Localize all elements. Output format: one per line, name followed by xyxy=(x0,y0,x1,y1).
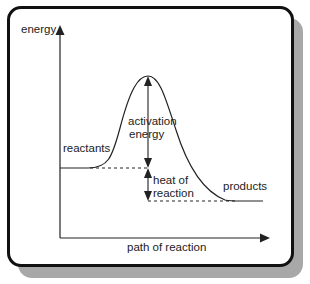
heat-of-reaction-label-line2: reaction xyxy=(153,187,194,199)
activation-energy-label-line1: activation xyxy=(128,115,177,127)
y-axis xyxy=(56,25,65,238)
x-axis-label: path of reaction xyxy=(127,241,206,253)
heat-of-reaction-arrow xyxy=(144,168,152,201)
activation-energy-label-line2: energy xyxy=(129,128,164,140)
x-axis-arrow-icon xyxy=(260,234,270,243)
y-axis-label: energy xyxy=(21,23,56,35)
y-axis-arrow-icon xyxy=(56,25,65,35)
energy-diagram: energy path of reaction reactants produc… xyxy=(0,0,310,284)
heat-of-reaction-label-line1: heat of xyxy=(153,174,189,186)
reactants-label: reactants xyxy=(63,142,111,154)
products-label: products xyxy=(223,180,267,192)
